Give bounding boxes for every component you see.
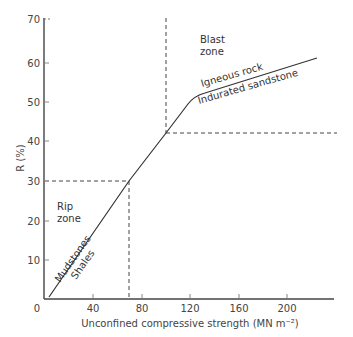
y-tick-label: 10 — [27, 255, 40, 266]
x-tick-label: 200 — [277, 303, 296, 314]
rip-zone-label: zone — [57, 213, 81, 224]
blast-zone-label: zone — [200, 46, 224, 57]
y-tick-label: 60 — [27, 58, 40, 69]
y-tick-label: 70 — [27, 14, 40, 25]
rip-zone-label: Rip — [57, 201, 73, 212]
x-tick-label: 40 — [87, 303, 100, 314]
blast-zone-label: Blast — [200, 34, 225, 45]
origin-label: 0 — [34, 303, 40, 314]
y-tick-label: 30 — [27, 176, 40, 187]
y-tick-label: 20 — [27, 216, 40, 227]
x-axis-title: Unconfined compressive strength (MN m⁻²) — [81, 318, 299, 329]
chart: 70 60 50 40 30 20 10 0 40 80 120 160 200… — [0, 0, 353, 337]
x-tick-label: 120 — [180, 303, 199, 314]
y-axis-title: R (%) — [15, 144, 26, 172]
x-tick-label: 160 — [229, 303, 248, 314]
x-ticks — [93, 294, 287, 298]
y-tick-label: 40 — [27, 136, 40, 147]
x-tick-label: 80 — [136, 303, 149, 314]
y-tick-label: 50 — [27, 97, 40, 108]
y-ticks — [45, 63, 49, 260]
